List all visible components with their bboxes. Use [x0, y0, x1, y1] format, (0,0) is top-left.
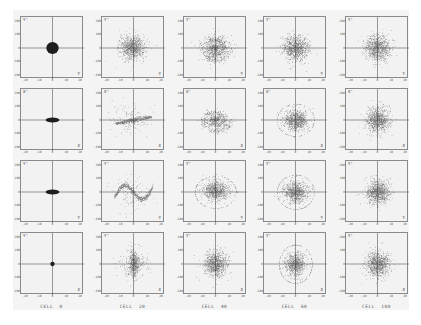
scatter-panel: Y'Y2001000-100-200-20-1001020: [263, 16, 326, 78]
y-tick-labels: 2001000-100-200: [175, 17, 183, 79]
y-axis-label: X': [348, 89, 353, 94]
x-axis-label: Y: [321, 215, 323, 220]
column-label: CELL 0: [40, 304, 62, 309]
y-tick-labels: 2001000-100-200: [255, 17, 263, 79]
x-axis-label: Y: [403, 215, 405, 220]
scatter-panel: X'X2001000-100-200-20-1001020: [20, 88, 83, 150]
x-axis-label: X: [78, 143, 80, 148]
scatter-plot: [102, 161, 165, 223]
y-tick-labels: 2001000-100-200: [175, 89, 183, 151]
y-axis-label: X': [23, 89, 28, 94]
scatter-plot: [21, 89, 84, 151]
scatter-plot: [264, 17, 327, 79]
scatter-panel: Y'X2001000-100-200-20-1001020: [183, 232, 246, 294]
x-tick-labels: -20-1001020: [21, 78, 84, 83]
x-axis-label: X: [241, 143, 243, 148]
scatter-panel: Y'X2001000-100-200-20-1001020: [101, 232, 164, 294]
scatter-plot: [346, 89, 409, 151]
scatter-plot: [346, 233, 409, 295]
y-tick-labels: 2001000-100-200: [255, 161, 263, 223]
y-tick-labels: 2001000-100-200: [337, 161, 345, 223]
x-tick-labels: -20-1001020: [346, 150, 409, 155]
x-tick-labels: -20-1001020: [346, 78, 409, 83]
y-axis-label: Y': [266, 161, 271, 166]
x-axis-label: X: [78, 287, 80, 292]
x-tick-labels: -20-1001020: [21, 294, 84, 299]
x-axis-label: Y: [241, 215, 243, 220]
x-tick-labels: -20-1001020: [184, 222, 247, 227]
x-tick-labels: -20-1001020: [102, 78, 165, 83]
scatter-plot: [21, 17, 84, 79]
x-tick-labels: -20-1001020: [346, 294, 409, 299]
scatter-panel: Y'Y2001000-100-200-20-1001020: [101, 16, 164, 78]
y-tick-labels: 2001000-100-200: [175, 161, 183, 223]
scatter-plot: [184, 161, 247, 223]
x-tick-labels: -20-1001020: [21, 150, 84, 155]
x-tick-labels: -20-1001020: [102, 150, 165, 155]
x-axis-label: Y: [159, 215, 161, 220]
y-axis-label: Y': [186, 17, 191, 22]
scatter-panel: Y'X2001000-100-200-20-1001020: [20, 232, 83, 294]
y-axis-label: Y': [266, 233, 271, 238]
scatter-plot: [264, 89, 327, 151]
y-axis-label: X': [186, 89, 191, 94]
x-axis-label: X: [403, 143, 405, 148]
scatter-panel: Y'Y2001000-100-200-20-1001020: [20, 160, 83, 222]
y-axis-label: Y': [104, 17, 109, 22]
column-label: CELL 40: [202, 304, 228, 309]
scatter-plot: [184, 89, 247, 151]
column-label: CELL 20: [120, 304, 146, 309]
scatter-panel: Y'Y2001000-100-200-20-1001020: [20, 16, 83, 78]
y-axis-label: Y': [266, 17, 271, 22]
scatter-panel: X'X2001000-100-200-20-1001020: [345, 88, 408, 150]
scatter-panel: X'X2001000-100-200-20-1001020: [263, 88, 326, 150]
scatter-plot: [102, 233, 165, 295]
y-tick-labels: 2001000-100-200: [175, 233, 183, 295]
y-tick-labels: 2001000-100-200: [93, 89, 101, 151]
y-axis-label: X': [104, 89, 109, 94]
y-axis-label: X': [266, 89, 271, 94]
x-axis-label: Y: [241, 71, 243, 76]
y-tick-labels: 2001000-100-200: [255, 89, 263, 151]
x-axis-label: Y: [159, 71, 161, 76]
x-axis-label: X: [403, 287, 405, 292]
y-axis-label: Y': [348, 161, 353, 166]
scatter-panel: X'X2001000-100-200-20-1001020: [183, 88, 246, 150]
scatter-panel: Y'Y2001000-100-200-20-1001020: [183, 16, 246, 78]
scatter-panel: Y'Y2001000-100-200-20-1001020: [263, 160, 326, 222]
scatter-plot: [346, 17, 409, 79]
y-axis-label: Y': [23, 233, 28, 238]
scatter-plot: [21, 233, 84, 295]
x-axis-label: Y: [321, 71, 323, 76]
x-tick-labels: -20-1001020: [264, 150, 327, 155]
y-tick-labels: 2001000-100-200: [337, 17, 345, 79]
x-tick-labels: -20-1001020: [264, 222, 327, 227]
y-tick-labels: 2001000-100-200: [12, 233, 20, 295]
y-tick-labels: 2001000-100-200: [12, 89, 20, 151]
y-axis-label: Y': [186, 233, 191, 238]
x-tick-labels: -20-1001020: [264, 78, 327, 83]
scatter-plot: [102, 89, 165, 151]
scatter-panel: Y'X2001000-100-200-20-1001020: [345, 232, 408, 294]
y-tick-labels: 2001000-100-200: [337, 233, 345, 295]
x-axis-label: Y: [78, 215, 80, 220]
x-tick-labels: -20-1001020: [102, 294, 165, 299]
y-tick-labels: 2001000-100-200: [12, 17, 20, 79]
scatter-panel: Y'Y2001000-100-200-20-1001020: [101, 160, 164, 222]
x-axis-label: X: [321, 143, 323, 148]
x-tick-labels: -20-1001020: [346, 222, 409, 227]
scatter-panel: X'X2001000-100-200-20-1001020: [101, 88, 164, 150]
y-tick-labels: 2001000-100-200: [255, 233, 263, 295]
scatter-plot: [102, 17, 165, 79]
x-tick-labels: -20-1001020: [184, 150, 247, 155]
y-axis-label: Y': [23, 161, 28, 166]
scatter-plot: [184, 233, 247, 295]
x-tick-labels: -20-1001020: [184, 78, 247, 83]
scatter-panel: Y'Y2001000-100-200-20-1001020: [183, 160, 246, 222]
x-tick-labels: -20-1001020: [184, 294, 247, 299]
column-label: CELL 60: [282, 304, 308, 309]
scatter-plot: [184, 17, 247, 79]
scatter-panel: Y'Y2001000-100-200-20-1001020: [345, 16, 408, 78]
x-axis-label: X: [159, 287, 161, 292]
y-tick-labels: 2001000-100-200: [337, 89, 345, 151]
